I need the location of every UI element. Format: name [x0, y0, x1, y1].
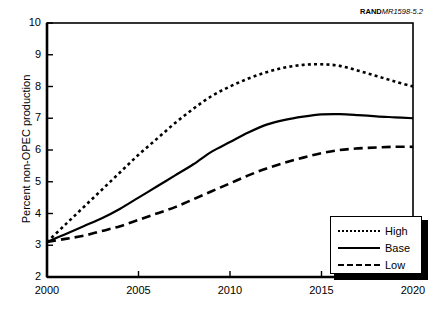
y-tick-label-3: 3	[15, 239, 41, 250]
x-tick-label-2015: 2015	[297, 285, 347, 296]
legend-label-high: High	[385, 225, 408, 237]
y-tick-label-6: 6	[15, 144, 41, 155]
figure-container: RANDMR1598-5.2 Percent non-OPEC producti…	[0, 0, 439, 318]
legend-label-low: Low	[385, 259, 405, 271]
x-tick-label-2005: 2005	[114, 285, 164, 296]
legend-line-sample-base-icon	[338, 247, 380, 249]
legend-label-base: Base	[385, 242, 410, 254]
source-label-bold: RAND	[360, 7, 382, 16]
y-tick-label-4: 4	[15, 208, 41, 219]
legend-item-base[interactable]: Base	[331, 239, 423, 257]
y-tick-label-5: 5	[15, 176, 41, 187]
y-tick-label-2: 2	[15, 271, 41, 282]
x-tick-label-2010: 2010	[205, 285, 255, 296]
legend-item-high[interactable]: High	[331, 222, 423, 240]
y-tick-label-8: 8	[15, 81, 41, 92]
source-label: RANDMR1598-5.2	[360, 7, 423, 16]
x-tick-label-2000: 2000	[22, 285, 72, 296]
x-tick-label-2020: 2020	[388, 285, 438, 296]
source-label-italic: MR1598-5.2	[382, 7, 423, 16]
legend-line-sample-high-icon	[338, 230, 380, 232]
y-tick-label-10: 10	[15, 17, 41, 28]
legend-item-low[interactable]: Low	[331, 256, 423, 274]
y-tick-label-7: 7	[15, 112, 41, 123]
chart-legend: HighBaseLow	[330, 216, 422, 274]
y-tick-label-9: 9	[15, 49, 41, 60]
legend-line-sample-low-icon	[338, 264, 380, 266]
